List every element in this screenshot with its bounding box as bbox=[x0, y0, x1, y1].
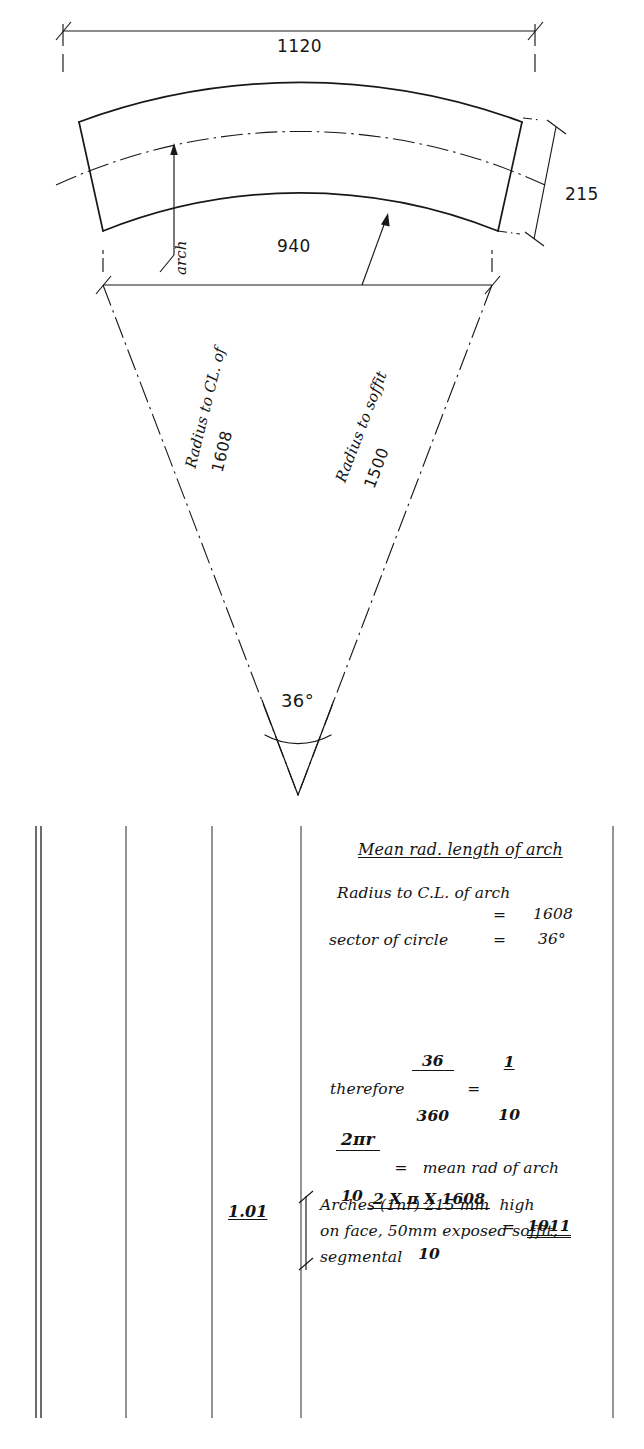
description-line-1: on face, 50mm exposed soffit, bbox=[320, 1222, 558, 1240]
dimension-label-angle: 36° bbox=[281, 690, 314, 711]
label-arch: arch bbox=[172, 240, 190, 275]
takeoff-line-1-eq: = bbox=[493, 906, 506, 924]
arch-ring bbox=[56, 82, 545, 231]
leader-soffit bbox=[362, 213, 390, 285]
takeoff-line-2-label: sector of circle bbox=[329, 931, 448, 949]
sector-radii bbox=[103, 285, 492, 795]
description-line-0: Arches (1nr) 215 mm high bbox=[320, 1196, 535, 1214]
takeoff-line-2-value: 36° bbox=[538, 930, 566, 948]
takeoff-heading: Mean rad. length of arch bbox=[358, 840, 563, 859]
description-line-2: segmental bbox=[320, 1248, 402, 1266]
dimension-label-215: 215 bbox=[565, 184, 599, 204]
takeoff-line-1-value: 1608 bbox=[533, 905, 573, 923]
dimension-label-1120: 1120 bbox=[277, 36, 322, 56]
takeoff-line-0-label: Radius to C.L. of arch bbox=[337, 884, 510, 902]
dimension-940 bbox=[96, 250, 500, 294]
takeoff-evaluation: 2 X π X 1608 10 = 1011 bbox=[368, 1118, 571, 1317]
takeoff-line-2-eq: = bbox=[493, 931, 506, 949]
dimension-label-940: 940 bbox=[277, 236, 311, 256]
quantity-value: 1.01 bbox=[228, 1202, 267, 1221]
